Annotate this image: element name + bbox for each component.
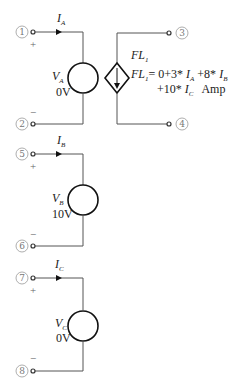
node-2-label: 2 (19, 119, 25, 129)
wire-fl-bottom (117, 93, 167, 124)
terminal-5[interactable] (31, 152, 35, 156)
terminal-4[interactable] (167, 122, 171, 126)
plus-sign-c: + (30, 284, 36, 296)
minus-sign-a: − (30, 106, 36, 118)
current-label-c: IC (54, 257, 64, 273)
current-arrow-b-icon (56, 151, 62, 157)
voltage-source-a-symbol[interactable] (68, 63, 98, 93)
node-4-label: 4 (179, 119, 185, 129)
current-arrow-a-icon (56, 29, 62, 35)
source-c-name: VC (55, 316, 67, 332)
dependent-current-source-block: 3 4 FL1 FL1= 0+3* IA +8* IB +10* ICAmp (105, 27, 228, 130)
terminal-7[interactable] (31, 276, 35, 280)
terminal-8[interactable] (31, 369, 35, 373)
wire-c-top (35, 278, 83, 310)
voltage-source-b-block: 5 IB + VB 10V − 6 (16, 133, 98, 252)
circuit-diagram: 1 IA + VA 0V − 2 3 4 FL1 FL1= 0+3* IA +8… (0, 0, 234, 382)
voltage-source-c-symbol[interactable] (68, 311, 98, 341)
node-6-label: 6 (19, 241, 25, 251)
equation-line-1: FL1= 0+3* IA +8* IB (130, 67, 228, 83)
source-b-value: 10V (52, 207, 73, 221)
minus-sign-b: − (30, 228, 36, 240)
voltage-source-a-block: 1 IA + VA 0V − 2 (16, 11, 98, 130)
source-c-value: 0V (56, 331, 71, 345)
terminal-1[interactable] (31, 30, 35, 34)
minus-sign-c: − (30, 352, 36, 364)
plus-sign-a: + (30, 38, 36, 50)
wire-c-bottom (35, 341, 83, 371)
wire-b-top (35, 154, 83, 185)
source-a-name: VA (52, 69, 64, 85)
node-7-label: 7 (19, 273, 25, 283)
node-1-label: 1 (19, 27, 25, 37)
plus-sign-b: + (30, 160, 36, 172)
terminal-2[interactable] (31, 122, 35, 126)
source-b-name: VB (52, 191, 64, 207)
node-3-label: 3 (179, 28, 185, 38)
node-5-label: 5 (19, 149, 25, 159)
equation-line-2: +10* ICAmp (157, 82, 225, 98)
terminal-3[interactable] (167, 31, 171, 35)
dependent-source-name: FL1 (130, 48, 149, 64)
voltage-source-c-block: 7 IC + VC 0V − 8 (16, 257, 98, 377)
terminal-6[interactable] (31, 244, 35, 248)
wire-a-top (35, 32, 83, 63)
node-8-label: 8 (19, 366, 25, 376)
current-label-a: IA (56, 11, 66, 27)
current-arrow-c-icon (56, 275, 62, 281)
current-label-b: IB (56, 133, 66, 149)
source-a-value: 0V (56, 85, 71, 99)
